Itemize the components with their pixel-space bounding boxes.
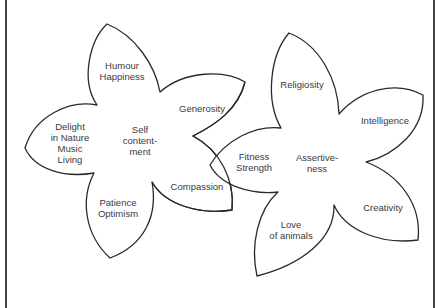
petal-label-humour-happiness: Humour Happiness [100,60,145,82]
petal-label-patience-optimism: Patience Optimism [98,197,138,219]
petal-label-delight-in-nature: Delight in Nature Music Living [51,121,90,165]
petal-label-intelligence: Intelligence [361,115,409,126]
petal-label-creativity: Creativity [363,202,403,213]
petal-label-religiosity: Religiosity [280,79,323,90]
petal-label-compassion: Compassion [171,181,224,192]
center-label-assertiveness: Assertive- ness [296,152,338,174]
petal-label-generosity: Generosity [179,103,225,114]
petal-label-love-of-animals: Love of animals [269,219,312,241]
petal-label-fitness-strength: Fitness Strength [236,151,272,173]
center-label-self-contentment: Self content- ment [123,124,157,157]
